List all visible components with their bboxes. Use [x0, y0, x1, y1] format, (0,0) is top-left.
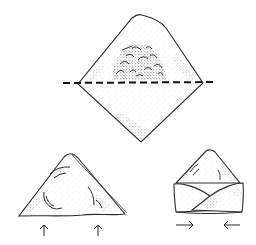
left-arrow [224, 221, 240, 229]
step-3-envelope [174, 150, 243, 229]
illustration-canvas: Folding a filled pastry square into a tr… [0, 0, 256, 245]
up-arrow-left [40, 225, 48, 236]
right-arrow [176, 221, 193, 229]
step-1-square-with-filling [63, 15, 216, 142]
step-2-triangle [19, 154, 127, 236]
up-arrow-right [94, 225, 102, 236]
